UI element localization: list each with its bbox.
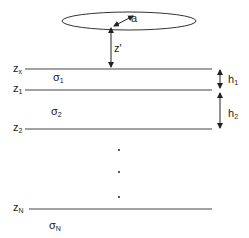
layer-label-sigma2: σ2 <box>51 106 62 120</box>
layer-label-sigmaN: σN <box>49 220 61 234</box>
ellipsis-dot <box>118 149 120 151</box>
layered-medium-diagram <box>0 0 249 238</box>
thickness-label-h2: h2 <box>228 108 238 122</box>
thickness-label-h1: h1 <box>228 74 238 88</box>
interface-label-zx: zx <box>13 63 22 77</box>
coil-ellipse <box>62 12 196 30</box>
ellipsis-dot <box>118 196 120 198</box>
height-label: z' <box>114 43 122 54</box>
interface-label-z1: z1 <box>13 83 22 97</box>
radius-label: a <box>131 13 137 24</box>
interface-label-z2: z2 <box>13 122 22 136</box>
interface-label-zN: zN <box>13 202 24 216</box>
ellipsis-dot <box>118 171 120 173</box>
layer-label-sigma1: σ1 <box>53 72 64 86</box>
